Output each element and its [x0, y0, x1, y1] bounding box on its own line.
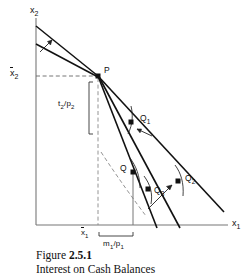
point-marker-P: [96, 74, 101, 79]
plot-canvas: [0, 0, 249, 249]
point-marker-Q3: [146, 187, 151, 192]
point-marker-Q: [131, 170, 136, 175]
vertical-bracket-label: t2/p2: [58, 100, 75, 110]
figure-container: x2 x1 x2 x1 t2/p2 m1/p1 P Q1 Q Q3 Q2 Fig…: [0, 0, 249, 279]
point-label-P: P: [104, 66, 110, 75]
x-axis-label: x1: [232, 219, 240, 230]
figure-caption-line-1: Figure 2.5.1: [36, 249, 92, 261]
arrow-head-q1: [137, 129, 142, 133]
figure-caption: Figure 2.5.1 Interest on Cash Balances: [36, 249, 246, 276]
horizontal-bracket: [99, 232, 133, 236]
x-endowment-tick-label: x1: [81, 229, 88, 239]
vertical-bracket: [89, 82, 93, 134]
dashed-guides-group: [36, 76, 146, 225]
y-endowment-tick-label: x2: [10, 69, 18, 80]
point-marker-Q2: [176, 179, 181, 184]
figure-caption-title: Interest on Cash Balances: [36, 263, 246, 277]
point-label-Q2: Q2: [185, 174, 195, 185]
figure-caption-prefix: Figure: [36, 249, 66, 261]
budget-line-steep: [98, 76, 157, 228]
figure-caption-number: 2.5.1: [69, 249, 92, 261]
budget-lines-group: [36, 26, 224, 228]
point-label-Q1: Q1: [140, 114, 150, 125]
budget-line-inner: [36, 44, 98, 77]
point-label-Q3: Q3: [154, 186, 164, 197]
point-label-Q: Q: [120, 164, 127, 173]
budget-line-outer: [36, 26, 98, 76]
y-axis-label: x2: [30, 6, 38, 17]
point-marker-Q1: [129, 120, 134, 125]
